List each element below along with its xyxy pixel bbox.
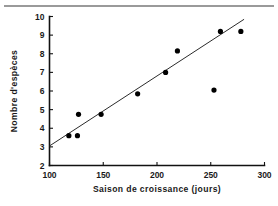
y-tick-label: 7 bbox=[40, 67, 45, 77]
data-point bbox=[66, 133, 71, 138]
y-axis-title: Nombre d'espèces bbox=[9, 50, 19, 132]
data-point bbox=[76, 112, 81, 117]
y-tick-label: 8 bbox=[40, 49, 45, 59]
data-point bbox=[163, 70, 168, 75]
x-tick-label: 100 bbox=[42, 170, 56, 180]
data-point bbox=[218, 29, 223, 34]
x-tick-label: 250 bbox=[204, 170, 218, 180]
y-tick-label: 9 bbox=[40, 30, 45, 40]
y-tick-label: 5 bbox=[40, 105, 45, 115]
trendline-segment bbox=[50, 19, 245, 146]
y-tick-label: 4 bbox=[40, 123, 45, 133]
chart-figure: 2345678910 100150200250300 Saison de cro… bbox=[0, 0, 278, 206]
data-point bbox=[238, 29, 243, 34]
y-axis-tick-labels: 2345678910 bbox=[35, 12, 45, 171]
y-tick-label: 3 bbox=[40, 142, 45, 152]
y-tick-label: 6 bbox=[40, 86, 45, 96]
data-point bbox=[75, 133, 80, 138]
data-points bbox=[66, 29, 243, 138]
x-tick-label: 300 bbox=[257, 170, 271, 180]
data-point bbox=[99, 112, 104, 117]
x-axis-title: Saison de croissance (jours) bbox=[93, 184, 221, 194]
data-point bbox=[135, 91, 140, 96]
scatter-plot-canvas: 2345678910 100150200250300 Saison de cro… bbox=[0, 0, 278, 206]
trendline bbox=[50, 19, 245, 146]
x-tick-label: 200 bbox=[150, 170, 164, 180]
data-point bbox=[211, 87, 216, 92]
data-point bbox=[175, 48, 180, 53]
x-tick-label: 150 bbox=[96, 170, 110, 180]
x-axis-tick-labels: 100150200250300 bbox=[42, 170, 271, 180]
y-tick-label: 10 bbox=[35, 12, 45, 22]
